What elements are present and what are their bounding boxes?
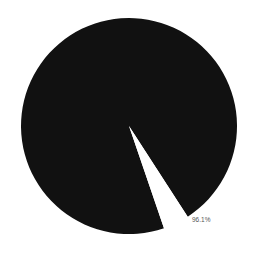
slice-value-label: 96.1% [192, 216, 211, 223]
pie-slices [21, 18, 237, 234]
pie-slice-0 [21, 18, 237, 234]
pie-chart: 96.1% [0, 0, 253, 253]
